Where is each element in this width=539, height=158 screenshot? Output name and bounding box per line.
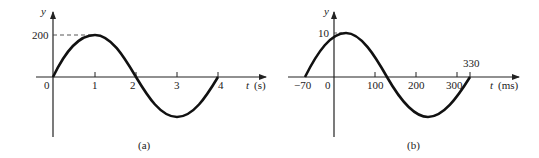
panel-a: y 200 0 1 2 3 4 t (s) (a) xyxy=(32,5,266,152)
peak-label-a: 200 xyxy=(32,29,49,41)
x-var-b: t xyxy=(490,79,494,91)
tick-label-a-1: 1 xyxy=(92,79,98,91)
tick-label-b-300: 300 xyxy=(446,79,463,91)
sine-curve-a xyxy=(53,35,218,117)
tick-label-a-4: 4 xyxy=(218,79,224,91)
panel-label-a: (a) xyxy=(138,139,151,152)
peak-label-b: 10 xyxy=(318,27,330,39)
tick-label-b-100: 100 xyxy=(367,79,384,91)
panel-label-b: (b) xyxy=(407,139,420,152)
sine-curve-b xyxy=(305,33,470,117)
figure: y 200 0 1 2 3 4 t (s) (a) y 10 −70 0 100… xyxy=(0,0,539,158)
x-var-a: t xyxy=(246,79,250,91)
tick-label-b-neg70: −70 xyxy=(294,79,312,91)
tick-label-b-200: 200 xyxy=(408,79,425,91)
tick-label-a-3: 3 xyxy=(174,79,180,91)
y-label-b: y xyxy=(323,5,329,17)
x-unit-b: (ms) xyxy=(498,79,519,92)
tick-label-a-2: 2 xyxy=(130,79,136,91)
x-unit-a: (s) xyxy=(254,79,266,92)
panel-b: y 10 −70 0 100 200 300 330 t (ms) (b) xyxy=(288,5,519,152)
tick-label-b-330: 330 xyxy=(463,57,480,69)
tick-label-b-0: 0 xyxy=(325,79,331,91)
y-label-a: y xyxy=(40,5,46,17)
tick-label-a-0: 0 xyxy=(44,79,50,91)
